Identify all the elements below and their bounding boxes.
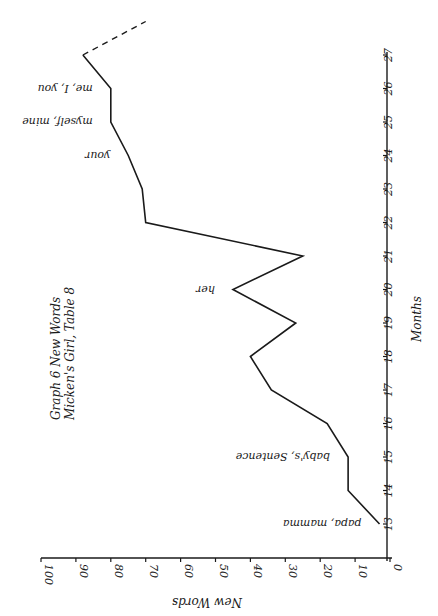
months-axis-label: Months <box>410 296 424 343</box>
value-tick-label: 20 <box>321 563 334 578</box>
month-tick-label: 20 <box>382 283 395 298</box>
month-tick-label: 16 <box>382 417 395 431</box>
rotated-line-chart: 0102030405060708090100131415161718192021… <box>0 0 438 616</box>
value-tick-label: 100 <box>42 564 55 585</box>
value-tick-label: 0 <box>391 564 404 571</box>
value-tick-label: 60 <box>182 564 195 578</box>
value-tick-label: 90 <box>77 564 90 578</box>
month-tick-label: 14 <box>382 484 395 498</box>
word-annotation: baby's, Sentence <box>235 450 330 463</box>
word-annotation: papa, mamma <box>283 517 362 530</box>
month-tick-label: 18 <box>382 350 395 364</box>
month-tick-label: 27 <box>382 48 395 63</box>
month-tick-label: 23 <box>382 182 395 197</box>
new-words-line <box>83 55 380 524</box>
value-tick-label: 50 <box>217 564 230 578</box>
word-annotation: myself, mine <box>22 115 93 128</box>
month-tick-label: 26 <box>382 82 395 97</box>
value-tick-label: 30 <box>286 564 299 578</box>
month-tick-label: 17 <box>382 383 395 397</box>
value-tick-label: 70 <box>147 564 160 578</box>
value-tick-label: 10 <box>356 564 369 578</box>
month-tick-label: 19 <box>382 316 395 330</box>
chart-titles: Graph 6 New Words Micken's Girl, Table 8… <box>49 286 424 609</box>
word-annotation: me, I, you <box>38 82 93 95</box>
month-tick-label: 13 <box>382 517 395 531</box>
new-words-axis-label: New Words <box>172 595 243 609</box>
month-tick-label: 15 <box>382 450 395 464</box>
value-tick-label: 40 <box>251 563 264 578</box>
month-tick-label: 24 <box>382 149 395 164</box>
chart-title: Graph 6 New Words <box>49 297 63 420</box>
month-tick-label: 21 <box>382 249 395 264</box>
value-tick-label: 80 <box>112 564 125 578</box>
dashed-extension-line <box>83 22 146 56</box>
month-tick-label: 25 <box>382 115 395 130</box>
word-annotation: your <box>84 149 111 162</box>
chart-subtitle: Micken's Girl, Table 8 <box>63 286 77 421</box>
word-annotation: her <box>195 283 215 296</box>
axis-ticks: 0102030405060708090100131415161718192021… <box>41 48 404 585</box>
month-tick-label: 22 <box>382 216 395 231</box>
